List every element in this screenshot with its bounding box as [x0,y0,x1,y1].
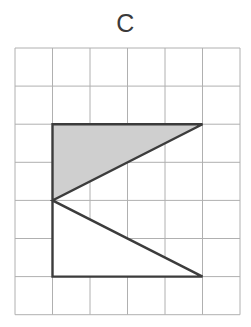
grid-figure-canvas [0,0,251,327]
figure-panel: C [0,0,251,327]
